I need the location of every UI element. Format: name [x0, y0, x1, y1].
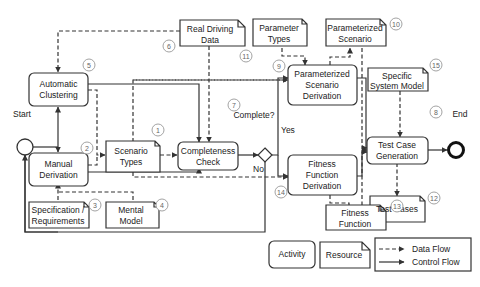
tcg-line2: Generation — [376, 151, 418, 161]
mental-model-line1: Mental — [118, 205, 144, 215]
number-14: 14 — [277, 189, 285, 196]
legend-activity-label: Activity — [279, 249, 307, 259]
specific-system-model-line1: Specific — [382, 71, 413, 81]
legend-resource-label: Resource — [326, 250, 363, 260]
legend: Activity Resource Data Flow Control Flow — [269, 238, 471, 271]
end-node — [449, 143, 464, 158]
decision-label: Complete? — [233, 110, 274, 120]
ffd-line2: Function — [306, 170, 339, 180]
decision-diamond — [258, 148, 272, 162]
parameterized-scenario-line2: Scenario — [338, 34, 372, 44]
tcg-line1: Test Case — [378, 140, 416, 150]
number-11: 11 — [242, 53, 249, 60]
spec-req-line1: Specification / — [32, 205, 86, 215]
real-driving-data-line1: Real Driving — [187, 24, 234, 34]
parameterized-scenario-line1: Parameterized — [327, 23, 383, 33]
number-8: 8 — [434, 109, 438, 116]
specific-system-model-line2: System Model — [370, 81, 424, 91]
ffd-line3: Derivation — [303, 181, 342, 191]
manual-derivation-line2: Derivation — [39, 170, 78, 180]
legend-control-flow-label: Control Flow — [412, 257, 461, 267]
number-5: 5 — [87, 62, 91, 69]
number-10: 10 — [392, 21, 400, 28]
fitness-function-line1: Fitness — [341, 208, 368, 218]
scenario-types-line2: Types — [120, 157, 143, 167]
psd-line2: Scenario — [305, 80, 339, 90]
legend-data-flow-label: Data Flow — [412, 244, 451, 254]
number-15: 15 — [432, 62, 440, 69]
number-2: 2 — [85, 145, 89, 152]
number-1: 1 — [156, 127, 160, 134]
parameter-types-line1: Parameter — [259, 23, 299, 33]
mental-model-line2: Model — [119, 216, 142, 226]
ffd-line1: Fitness — [308, 159, 335, 169]
psd-line3: Derivation — [303, 91, 342, 101]
number-6: 6 — [167, 43, 171, 50]
number-7: 7 — [232, 102, 236, 109]
spec-req-line2: Requirements — [32, 216, 85, 226]
psd-line1: Parameterized — [294, 69, 350, 79]
parameter-types-line2: Types — [268, 34, 291, 44]
completeness-check-line2: Check — [196, 157, 221, 167]
start-label: Start — [13, 109, 32, 119]
scenario-types-line1: Scenario — [114, 146, 148, 156]
number-12: 12 — [430, 195, 438, 202]
number-13: 13 — [393, 203, 401, 210]
start-node — [17, 139, 33, 155]
number-3: 3 — [93, 202, 97, 209]
automatic-clustering-line2: Clustering — [39, 90, 78, 100]
completeness-check-line1: Completeness — [181, 146, 235, 156]
number-4: 4 — [160, 202, 164, 209]
end-label: End — [452, 109, 467, 119]
real-driving-data-line2: Data — [201, 35, 219, 45]
manual-derivation-line1: Manual — [45, 159, 73, 169]
yes-label: Yes — [281, 125, 295, 135]
fitness-function-line2: Function — [339, 219, 372, 229]
number-9: 9 — [277, 63, 281, 70]
process-diagram: Automatic Clustering Manual Derivation C… — [0, 0, 480, 287]
no-label: No — [253, 164, 264, 174]
automatic-clustering-line1: Automatic — [40, 79, 79, 89]
